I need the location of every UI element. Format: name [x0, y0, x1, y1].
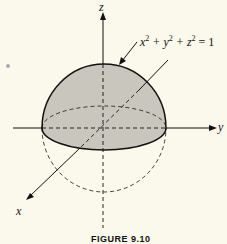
upper-hemisphere	[42, 64, 166, 150]
x-axis-label: x	[16, 204, 21, 219]
y-axis-label: y	[218, 120, 223, 135]
z-axis-label: z	[99, 0, 104, 15]
figure-caption: FIGURE 9.10	[91, 234, 151, 244]
sphere-equation: x2 + y2 + z2 = 1	[140, 34, 214, 50]
